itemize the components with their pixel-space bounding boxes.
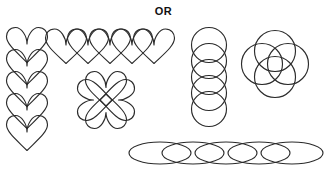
heart-shape [7, 116, 48, 151]
heart-shape [100, 80, 135, 121]
circle-rosette-svg [238, 26, 316, 102]
ellipse-shape-group [129, 142, 323, 164]
heart-shape [112, 29, 153, 64]
vertical-heart-column [3, 22, 51, 144]
ellipse-shape [261, 142, 323, 164]
horizontal-heart-row [46, 24, 174, 70]
vertical-heart-column-svg [3, 22, 51, 144]
circle-shape-group [192, 28, 227, 127]
heart-shape [86, 72, 127, 107]
vertical-circle-column [188, 24, 230, 128]
ellipse-shape [195, 142, 257, 164]
circle-shape [192, 28, 227, 63]
horizontal-heart-row-svg [46, 24, 174, 70]
horizontal-ellipse-row [126, 136, 326, 170]
heart-shape [86, 94, 127, 129]
circle-shape [255, 31, 296, 72]
worksheet-canvas: OR [0, 0, 327, 172]
heart-clover-rosette [74, 68, 138, 132]
heart-shape [7, 94, 48, 129]
circle-shape [192, 76, 227, 111]
heart-shape [46, 29, 87, 64]
circle-shape [192, 92, 227, 127]
heart-shape [7, 28, 48, 63]
circle-rosette [238, 26, 316, 102]
ellipse-shape [228, 142, 290, 164]
heart-shape [78, 80, 113, 121]
page-title: OR [0, 5, 327, 18]
ellipse-shape [162, 142, 224, 164]
heart-shape [134, 29, 175, 64]
circle-shape [192, 44, 227, 79]
vertical-circle-column-svg [188, 24, 230, 128]
heart-shape [7, 72, 48, 107]
heart-shape [90, 29, 131, 64]
heart-shape-group [7, 28, 48, 151]
circle-shape [242, 44, 283, 85]
circle-shape [255, 57, 296, 98]
circle-shape [192, 60, 227, 95]
heart-shape-group [78, 72, 135, 129]
heart-shape [7, 50, 48, 85]
circle-shape-group [242, 31, 309, 98]
ellipse-shape [129, 142, 191, 164]
heart-shape-group [46, 29, 175, 64]
heart-shape [68, 29, 109, 64]
heart-clover-rosette-svg [74, 68, 138, 132]
circle-shape [268, 44, 309, 85]
horizontal-ellipse-row-svg [126, 136, 326, 170]
